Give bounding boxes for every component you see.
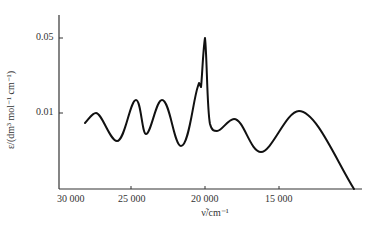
x-tick-label-30000: 30 000	[57, 193, 85, 204]
x-tick-label-25000: 25 000	[118, 193, 146, 204]
y-axis-label: ε/(dm³ mol⁻¹ cm⁻¹)	[5, 71, 16, 149]
x-tick-label-20000: 20 000	[191, 193, 219, 204]
spectrum-curve	[85, 38, 354, 189]
x-tick-label-15000: 15 000	[265, 193, 293, 204]
y-tick-label-0.01: 0.01	[36, 106, 54, 117]
y-tick-label-0.05: 0.05	[36, 31, 54, 42]
x-axis-label: ν̃/cm⁻¹	[201, 207, 229, 218]
